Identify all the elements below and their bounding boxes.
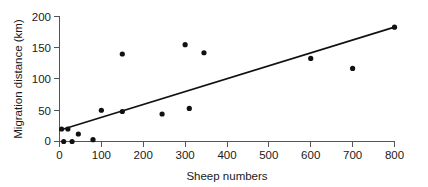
data-point (90, 137, 95, 142)
x-tick-label-400: 400 (217, 149, 236, 161)
y-tick-label-100: 100 (32, 73, 51, 85)
y-tick-label-200: 200 (32, 11, 51, 23)
data-point (65, 126, 70, 131)
y-axis-ticks (54, 17, 60, 142)
data-point (59, 126, 64, 131)
data-point (183, 42, 188, 47)
x-tick-label-0: 0 (56, 149, 62, 161)
x-axis-ticks (60, 142, 395, 148)
y-axis-group: 0 50 100 150 200 Migration distance (km) (12, 11, 60, 148)
data-point (350, 66, 355, 71)
x-tick-label-600: 600 (301, 149, 320, 161)
regression-line (60, 27, 395, 130)
data-point (99, 108, 104, 113)
x-tick-label-300: 300 (176, 149, 195, 161)
data-point (61, 139, 66, 144)
y-tick-label-150: 150 (32, 42, 51, 54)
scatter-plot-figure: 0 50 100 150 200 Migration distance (km) (0, 0, 428, 187)
data-point (120, 51, 125, 56)
data-point (76, 131, 81, 136)
data-point (120, 109, 125, 114)
data-point (392, 25, 397, 30)
x-tick-label-800: 800 (385, 149, 404, 161)
x-tick-label-200: 200 (134, 149, 153, 161)
data-point (187, 106, 192, 111)
x-axis-title: Sheep numbers (186, 170, 267, 182)
y-axis-title: Migration distance (km) (12, 19, 24, 139)
data-point (308, 56, 313, 61)
data-point (201, 50, 206, 55)
y-tick-label-50: 50 (38, 105, 51, 117)
y-axis-tick-labels: 0 50 100 150 200 (32, 11, 51, 148)
y-tick-label-0: 0 (45, 135, 51, 147)
x-tick-label-100: 100 (92, 149, 111, 161)
plot-canvas: 0 50 100 150 200 Migration distance (km) (0, 0, 428, 187)
data-point (69, 139, 74, 144)
x-axis-tick-labels: 0 100 200 300 400 500 600 700 800 (56, 149, 404, 161)
x-tick-label-700: 700 (343, 149, 362, 161)
x-tick-label-500: 500 (259, 149, 278, 161)
trend-line-path (60, 27, 395, 130)
x-axis-group: 0 100 200 300 400 500 600 700 800 Sheep … (56, 142, 404, 183)
data-point (159, 111, 164, 116)
